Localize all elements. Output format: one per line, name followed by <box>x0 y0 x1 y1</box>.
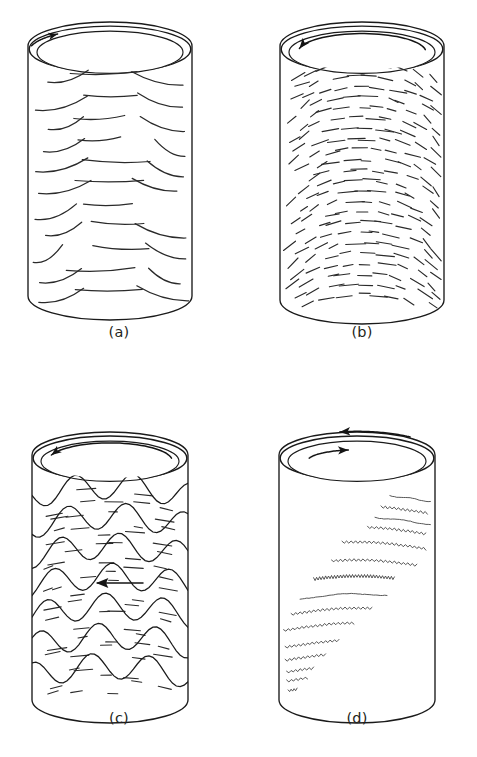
dense-dash-b <box>361 253 375 254</box>
panel-caption-a: (a) <box>109 324 130 340</box>
core-top-face-a <box>37 31 183 73</box>
core-panel-a: (a) <box>28 22 192 340</box>
dense-dash-b <box>346 244 366 245</box>
panel-caption-b: (b) <box>351 324 372 340</box>
dense-dash-b <box>361 161 371 162</box>
core-sample-figure: (a)(b)(c)(d) <box>0 0 477 757</box>
dense-dash-b <box>358 140 375 141</box>
dense-dash-b <box>348 138 365 139</box>
dense-dash-b <box>362 202 371 203</box>
dense-dash-b <box>344 180 362 181</box>
dense-dash-b <box>350 116 363 117</box>
core-top-face-d <box>288 441 426 481</box>
figure-root: (a)(b)(c)(d) <box>0 0 477 757</box>
dense-dash-b <box>358 96 378 97</box>
panel-caption-d: (d) <box>346 710 367 726</box>
panel-caption-c: (c) <box>109 710 129 726</box>
core-top-face-c <box>41 441 179 481</box>
dense-dash-b <box>365 243 379 244</box>
core-panel-c: (c) <box>32 432 188 726</box>
core-panel-b: (b) <box>280 22 444 340</box>
core-top-face-b <box>289 31 435 73</box>
core-panel-d: (d) <box>279 427 435 726</box>
dense-dash-b <box>361 232 372 233</box>
